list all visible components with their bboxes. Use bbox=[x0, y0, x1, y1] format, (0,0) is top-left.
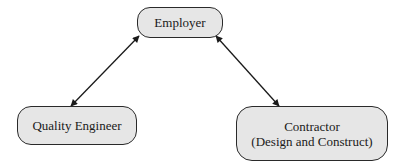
node-contractor-label-line1: Contractor bbox=[284, 119, 340, 134]
diagram-canvas: Employer Quality Engineer Contractor (De… bbox=[0, 0, 406, 163]
node-employer-label: Employer bbox=[154, 15, 205, 30]
node-contractor: Contractor (Design and Construct) bbox=[236, 106, 388, 161]
node-contractor-label-line2: (Design and Construct) bbox=[251, 134, 372, 149]
edge-employer-quality-engineer bbox=[71, 36, 139, 106]
edge-employer-contractor bbox=[216, 36, 279, 106]
node-employer: Employer bbox=[137, 7, 223, 38]
node-quality-engineer: Quality Engineer bbox=[17, 106, 137, 145]
node-quality-engineer-label: Quality Engineer bbox=[32, 118, 121, 133]
